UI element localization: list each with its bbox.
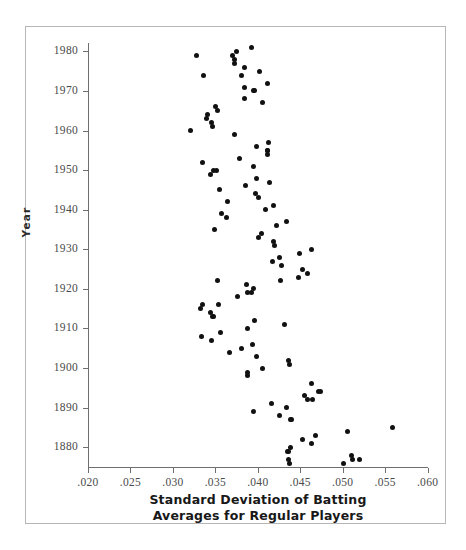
- data-point: [288, 445, 293, 450]
- data-point: [279, 263, 284, 268]
- y-tick-label-wrap: 1960: [32, 124, 78, 138]
- data-point: [199, 334, 204, 339]
- y-tick-label-wrap: 1970: [32, 84, 78, 98]
- data-point: [205, 112, 210, 117]
- data-point: [194, 53, 199, 58]
- data-point: [284, 219, 289, 224]
- data-point: [277, 413, 282, 418]
- data-point: [313, 433, 318, 438]
- data-point: [245, 326, 250, 331]
- data-point: [254, 354, 259, 359]
- data-point: [349, 453, 354, 458]
- data-point: [188, 128, 193, 133]
- y-tick-label: 1900: [38, 361, 78, 373]
- y-tick: [83, 447, 88, 448]
- data-point: [215, 108, 220, 113]
- y-tick-label-wrap: 1980: [32, 44, 78, 58]
- data-point: [305, 397, 310, 402]
- x-tick: [385, 468, 386, 473]
- data-point: [260, 100, 265, 105]
- data-point: [309, 247, 314, 252]
- data-point: [208, 310, 213, 315]
- scatter-plot: 1880189019001910192019301940195019601970…: [0, 0, 466, 550]
- x-tick-label: .040: [235, 476, 281, 488]
- x-axis-title-line-1: Standard Deviation of Batting: [88, 492, 428, 508]
- y-tick-label: 1960: [38, 124, 78, 136]
- data-point: [214, 168, 219, 173]
- x-tick-label: .050: [320, 476, 366, 488]
- data-point: [244, 282, 249, 287]
- data-point: [239, 73, 244, 78]
- y-tick-label-wrap: 1950: [32, 163, 78, 177]
- x-tick: [88, 468, 89, 473]
- y-tick: [83, 131, 88, 132]
- data-point: [252, 88, 257, 93]
- y-tick: [83, 91, 88, 92]
- data-point: [318, 389, 323, 394]
- data-point: [215, 278, 220, 283]
- data-point: [212, 227, 217, 232]
- x-tick-label: .045: [277, 476, 323, 488]
- y-tick: [83, 249, 88, 250]
- data-point: [260, 366, 265, 371]
- y-tick-label-wrap: 1930: [32, 242, 78, 256]
- data-point: [300, 267, 305, 272]
- y-tick-label: 1980: [38, 44, 78, 56]
- data-point: [300, 437, 305, 442]
- y-tick: [83, 210, 88, 211]
- data-point: [263, 207, 268, 212]
- y-tick: [83, 408, 88, 409]
- x-tick-label: .020: [65, 476, 111, 488]
- data-point: [282, 322, 287, 327]
- data-point: [235, 294, 240, 299]
- data-point: [278, 278, 283, 283]
- data-point: [269, 401, 274, 406]
- data-point: [284, 405, 289, 410]
- y-tick-label: 1920: [38, 282, 78, 294]
- x-tick: [215, 468, 216, 473]
- data-point: [209, 338, 214, 343]
- data-point: [256, 195, 261, 200]
- data-point: [305, 271, 310, 276]
- data-point: [251, 286, 256, 291]
- data-point: [234, 49, 239, 54]
- data-point: [274, 223, 279, 228]
- data-point: [254, 176, 259, 181]
- data-point: [200, 160, 205, 165]
- y-tick: [83, 328, 88, 329]
- data-point: [249, 290, 254, 295]
- data-point: [218, 330, 223, 335]
- x-tick: [300, 468, 301, 473]
- y-tick: [83, 368, 88, 369]
- data-point: [254, 144, 259, 149]
- y-tick: [83, 51, 88, 52]
- x-tick-label: .030: [150, 476, 196, 488]
- data-point: [219, 211, 224, 216]
- data-point: [289, 417, 294, 422]
- y-tick-label-wrap: 1880: [32, 440, 78, 454]
- y-tick-label-wrap: 1920: [32, 282, 78, 296]
- y-tick-label: 1880: [38, 440, 78, 452]
- data-point: [271, 203, 276, 208]
- y-tick-label: 1950: [38, 163, 78, 175]
- data-point: [249, 45, 254, 50]
- x-tick-label: .035: [192, 476, 238, 488]
- x-tick-label: .055: [362, 476, 408, 488]
- data-point: [270, 259, 275, 264]
- y-tick-label-wrap: 1940: [32, 203, 78, 217]
- data-point: [211, 314, 216, 319]
- data-point: [237, 156, 242, 161]
- data-point: [277, 255, 282, 260]
- data-point: [286, 358, 291, 363]
- y-tick-label: 1940: [38, 203, 78, 215]
- x-tick: [428, 468, 429, 473]
- y-tick-label: 1930: [38, 242, 78, 254]
- data-point: [216, 302, 221, 307]
- data-point: [266, 140, 271, 145]
- data-point: [200, 302, 205, 307]
- data-point: [242, 96, 247, 101]
- y-tick-label: 1890: [38, 401, 78, 413]
- data-point: [250, 342, 255, 347]
- data-point: [390, 425, 395, 430]
- data-point: [239, 346, 244, 351]
